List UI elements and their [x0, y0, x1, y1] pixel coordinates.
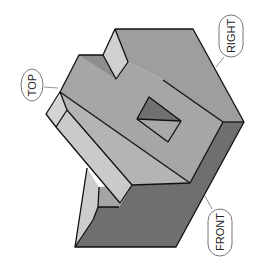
label-top-leader — [44, 87, 58, 88]
label-top: TOP — [21, 69, 58, 101]
label-right-text: RIGHT — [225, 19, 237, 54]
isometric-object-diagram: TOP RIGHT FRONT — [0, 0, 265, 270]
label-top-text: TOP — [26, 74, 38, 96]
label-front-leader — [205, 196, 212, 209]
label-front-text: FRONT — [214, 213, 226, 251]
label-right-leader — [216, 57, 224, 67]
label-right: RIGHT — [216, 15, 243, 67]
label-front: FRONT — [205, 196, 232, 256]
